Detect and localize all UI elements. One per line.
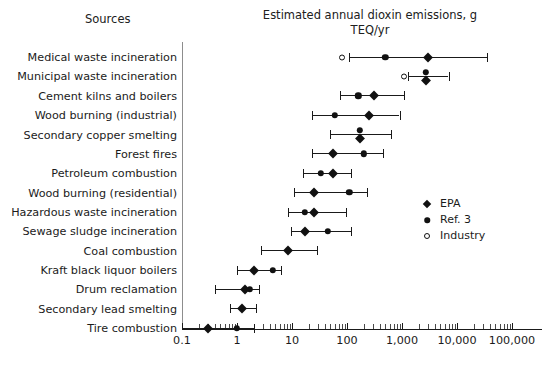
error-bar-cap-low [408, 72, 409, 81]
error-bar-line [294, 192, 367, 193]
marker-epa [328, 149, 338, 159]
marker-ref3 [270, 267, 276, 273]
marker-epa [283, 246, 293, 256]
data-row [0, 261, 560, 280]
error-bar-cap-high [404, 91, 405, 100]
error-bar-cap-low [261, 246, 262, 255]
marker-epa [300, 226, 310, 236]
data-row [0, 86, 560, 105]
error-bar-cap-high [346, 208, 347, 217]
error-bar-cap-low [303, 169, 304, 178]
marker-epa [364, 110, 374, 120]
error-bar-cap-low [237, 266, 238, 275]
plot-area: 0.11101001,00010,000100,000Medical waste… [0, 0, 560, 365]
marker-epa [369, 91, 379, 101]
error-bar-cap-high [367, 188, 368, 197]
marker-epa [237, 304, 247, 314]
error-bar-cap-low [312, 149, 313, 158]
data-row [0, 48, 560, 67]
error-bar-cap-high [259, 285, 260, 294]
marker-epa [309, 188, 319, 198]
marker-industry [401, 73, 407, 79]
marker-epa [423, 52, 433, 62]
marker-ref3 [325, 228, 331, 234]
open-circle-marker-icon [424, 233, 430, 239]
error-bar-cap-high [487, 53, 488, 62]
error-bar-line [349, 57, 487, 58]
data-row [0, 125, 560, 144]
legend-label: EPA [440, 197, 460, 210]
marker-industry [339, 54, 345, 60]
marker-ref3 [346, 189, 352, 195]
data-row [0, 241, 560, 260]
circle-marker-icon [424, 217, 430, 223]
chart-figure: Sources Estimated annual dioxin emission… [0, 0, 560, 365]
error-bar-line [312, 115, 400, 116]
marker-ref3 [332, 112, 338, 118]
legend-label: Industry [440, 229, 485, 242]
marker-ref3 [234, 325, 240, 331]
marker-epa [249, 265, 259, 275]
marker-epa [203, 323, 213, 333]
error-bar-cap-low [330, 130, 331, 139]
chart-legend: EPARef. 3Industry [424, 196, 485, 244]
error-bar-line [408, 76, 448, 77]
marker-ref3 [355, 92, 361, 98]
error-bar-cap-low [294, 188, 295, 197]
error-bar-cap-high [449, 72, 450, 81]
marker-epa [355, 134, 365, 144]
marker-epa [309, 207, 319, 217]
error-bar-cap-high [391, 130, 392, 139]
error-bar-cap-low [230, 304, 231, 313]
data-row [0, 67, 560, 86]
error-bar-line [312, 153, 383, 154]
legend-item-ref-3: Ref. 3 [424, 212, 485, 228]
data-row [0, 106, 560, 125]
error-bar-cap-high [383, 149, 384, 158]
error-bar-cap-high [256, 304, 257, 313]
error-bar-cap-low [291, 227, 292, 236]
legend-item-epa: EPA [424, 196, 485, 212]
marker-epa [421, 75, 431, 85]
marker-ref3 [301, 209, 307, 215]
error-bar-cap-high [400, 111, 401, 120]
data-row [0, 164, 560, 183]
data-row [0, 280, 560, 299]
error-bar-cap-low [312, 111, 313, 120]
legend-item-industry: Industry [424, 228, 485, 244]
marker-ref3 [317, 170, 323, 176]
error-bar-cap-low [288, 208, 289, 217]
data-row [0, 319, 560, 338]
error-bar-cap-low [215, 285, 216, 294]
legend-label: Ref. 3 [440, 213, 471, 226]
marker-ref3 [382, 54, 388, 60]
error-bar-cap-low [349, 53, 350, 62]
error-bar-cap-high [281, 266, 282, 275]
marker-ref3 [360, 151, 366, 157]
data-row [0, 144, 560, 163]
data-row [0, 299, 560, 318]
error-bar-line [182, 328, 254, 329]
error-bar-cap-low [340, 91, 341, 100]
error-bar-cap-high [351, 169, 352, 178]
error-bar-cap-high [351, 227, 352, 236]
diamond-marker-icon [423, 200, 431, 208]
error-bar-cap-high [254, 324, 255, 333]
error-bar-cap-high [317, 246, 318, 255]
marker-epa [328, 168, 338, 178]
